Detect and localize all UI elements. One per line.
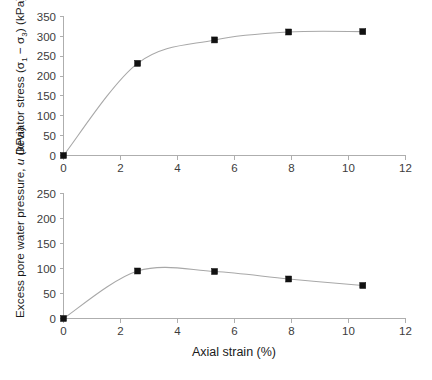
- figure-container: Deviator stress (σ1 − σ3) (kPa) 350 300: [0, 0, 432, 380]
- y-tick-label: 250: [37, 50, 56, 62]
- y-tick-label: 250: [37, 188, 56, 200]
- data-point-marker: [212, 37, 218, 43]
- data-point-marker: [360, 283, 366, 289]
- x-tick-label: 6: [231, 325, 237, 337]
- series-line-pore-pressure: [64, 267, 363, 318]
- data-point-marker: [286, 276, 292, 282]
- series-markers-pore-pressure: [61, 268, 366, 322]
- y-axis-title-bottom: Excess pore water pressure, u (kPa): [13, 127, 27, 318]
- y-tick-label: 200: [37, 213, 56, 225]
- y-ticks-top: [60, 17, 64, 156]
- x-ticks-bottom: [64, 319, 406, 323]
- x-tick-label: 4: [174, 162, 181, 174]
- y-tick-label: 0: [50, 313, 56, 325]
- data-point-marker: [212, 269, 218, 275]
- y-tick-label: 200: [37, 70, 56, 82]
- data-point-marker: [61, 153, 67, 159]
- series-line-deviator-stress: [64, 31, 363, 155]
- y-ticks-bottom: [60, 194, 64, 319]
- x-tick-label: 10: [342, 162, 355, 174]
- x-tick-label: 0: [60, 325, 66, 337]
- y-tick-label: 150: [37, 238, 56, 250]
- x-tick-label: 12: [399, 325, 412, 337]
- chart-svg: Deviator stress (σ1 − σ3) (kPa) 350 300: [0, 0, 432, 380]
- y-tick-labels-bottom: 250 200 150 100 50 0: [37, 188, 56, 325]
- series-markers-deviator-stress: [61, 29, 366, 159]
- x-tick-label: 2: [117, 162, 123, 174]
- x-tick-label: 4: [174, 325, 181, 337]
- x-tick-labels-top: 0 2 4 6 8 10 12: [60, 162, 412, 174]
- x-tick-label: 0: [60, 162, 66, 174]
- data-point-marker: [135, 60, 141, 66]
- y-tick-label: 50: [43, 130, 56, 142]
- x-tick-label: 10: [342, 325, 355, 337]
- x-ticks-top: [64, 156, 406, 160]
- y-tick-label: 50: [43, 288, 56, 300]
- y-tick-label: 0: [50, 150, 56, 162]
- y-tick-label: 150: [37, 90, 56, 102]
- x-tick-label: 6: [231, 162, 237, 174]
- x-tick-label: 8: [288, 325, 294, 337]
- data-point-marker: [286, 29, 292, 35]
- y-tick-label: 100: [37, 263, 56, 275]
- data-point-marker: [61, 316, 67, 322]
- y-tick-label: 350: [37, 11, 56, 23]
- x-tick-label: 2: [117, 325, 123, 337]
- x-tick-label: 12: [399, 162, 412, 174]
- y-tick-label: 300: [37, 31, 56, 43]
- x-axis-title: Axial strain (%): [192, 345, 276, 359]
- panel-deviator-stress: Deviator stress (σ1 − σ3) (kPa) 350 300: [13, 0, 412, 174]
- x-tick-labels-bottom: 0 2 4 6 8 10 12: [60, 325, 412, 337]
- data-point-marker: [360, 29, 366, 35]
- data-point-marker: [135, 268, 141, 274]
- x-tick-label: 8: [288, 162, 294, 174]
- y-tick-labels-top: 350 300 250 200 150 100 50 0: [37, 11, 56, 162]
- y-tick-label: 100: [37, 110, 56, 122]
